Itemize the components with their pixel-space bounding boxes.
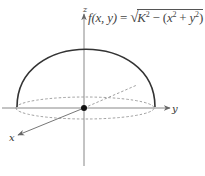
radicand-minus: − (x2 + y2): [150, 10, 204, 25]
origin-point: [81, 105, 87, 111]
hemisphere-diagram: z y x: [0, 0, 205, 176]
formula-lhs: f(x, y): [88, 10, 117, 25]
x-axis-label: x: [9, 132, 15, 143]
radicand: K2 − (x2 + y2): [137, 9, 203, 26]
depth-dashed-line: [84, 85, 137, 108]
function-formula: f(x, y) = √K2 − (x2 + y2): [88, 9, 203, 26]
hemisphere-curve: [17, 49, 155, 107]
x-axis: [18, 108, 84, 135]
y-axis-label: y: [171, 103, 178, 114]
formula-equals: =: [120, 10, 127, 25]
